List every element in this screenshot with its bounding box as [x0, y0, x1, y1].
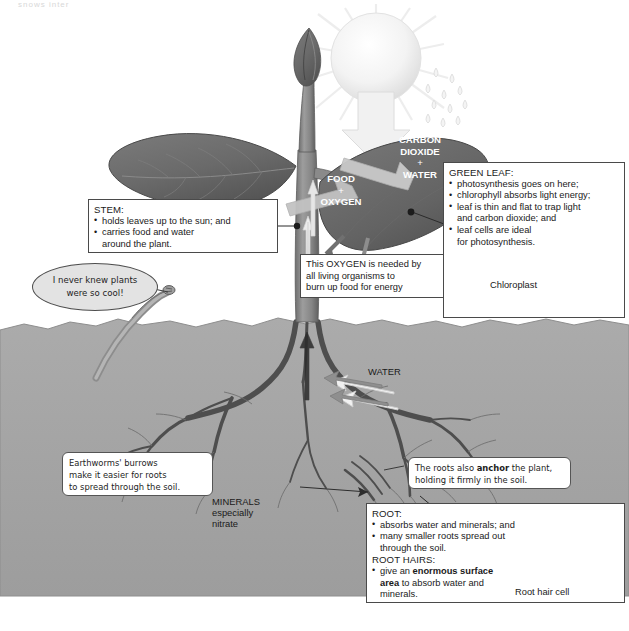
- root-hairs-pre: give an: [380, 566, 413, 576]
- earthworm-note-line-3: to spread through the soil.: [69, 481, 206, 493]
- oxygen-callout-box: This OXYGEN is needed by all living orga…: [300, 254, 452, 298]
- green-leaf-cont-4: for photosynthesis.: [449, 237, 619, 249]
- stem-shape-upper: [299, 80, 315, 152]
- stem-bullet-2: carries food and water: [94, 227, 272, 239]
- co2-line1: CARBON: [399, 134, 441, 145]
- food-plus: +: [338, 185, 344, 196]
- oxygen-line-2: all living organisms to: [306, 271, 446, 283]
- minerals-line1: MINERALS: [212, 496, 260, 507]
- sun-icon: [331, 13, 421, 103]
- oxygen-line-3: burn up food for energy: [306, 282, 446, 294]
- chloroplast-label: Chloroplast: [490, 280, 537, 292]
- anchor-bold: anchor: [477, 463, 509, 473]
- root-bullet-1: absorbs water and minerals; and: [372, 520, 619, 532]
- root-heading: ROOT:: [372, 508, 619, 520]
- anchor-pre: The roots also: [415, 463, 477, 473]
- green-leaf-bullet-2: chlorophyll absorbs light energy;: [449, 190, 619, 202]
- green-leaf-bullets: photosynthesis goes on here; chlorophyll…: [449, 179, 619, 214]
- anchor-post: the plant,: [509, 463, 552, 473]
- stem-leader-dot: [294, 223, 300, 229]
- root-hairs-line2: area to absorb water and: [372, 578, 619, 590]
- green-leaf-callout-box: GREEN LEAF: photosynthesis goes on here;…: [443, 162, 625, 318]
- root-bullets: absorbs water and minerals; and many sma…: [372, 520, 619, 543]
- co2-line2: DIOXIDE: [400, 146, 439, 157]
- green-leaf-heading: GREEN LEAF:: [449, 167, 619, 179]
- root-hairs-bullet-1: give an enormous surface: [372, 566, 619, 578]
- co2-plus: +: [417, 157, 423, 168]
- anchor-line-1: The roots also anchor the plant,: [415, 462, 564, 474]
- worm-bubble-line-1: I never knew plants: [53, 274, 138, 287]
- root-callout-box: ROOT: absorbs water and minerals; and ma…: [366, 503, 625, 603]
- leaf-top-shape: [109, 134, 296, 209]
- oxygen-line-1: This OXYGEN is needed by: [306, 259, 446, 271]
- minerals-label: MINERALS especially nitrate: [212, 496, 260, 529]
- anchor-line-2: holding it firmly in the soil.: [415, 474, 564, 486]
- earthworm-note-line-1: Earthworms' burrows: [69, 457, 206, 469]
- root-hairs-bold2: area: [380, 578, 399, 588]
- root-hairs-bullets: give an enormous surface: [372, 566, 619, 578]
- root-hairs-rest: to absorb water and: [399, 578, 484, 588]
- green-leaf-bullet-4: leaf cells are ideal: [449, 225, 619, 237]
- food-oxygen-label: FOOD + OXYGEN: [302, 173, 380, 208]
- green-leaf-bullet-1: photosynthesis goes on here;: [449, 179, 619, 191]
- root-cont-2: through the soil.: [372, 543, 619, 555]
- stem-bullet-1: holds leaves up to the sun; and: [94, 216, 272, 228]
- greenleaf-leader-dot: [408, 209, 415, 216]
- root-hair-cell-label: Root hair cell: [515, 587, 569, 599]
- stem-callout-box: STEM: holds leaves up to the sun; and ca…: [88, 199, 278, 253]
- minerals-line3: nitrate: [212, 518, 238, 529]
- oxygen-label: OXYGEN: [320, 196, 361, 207]
- green-leaf-bullet-3: leaf is thin and flat to trap light: [449, 202, 619, 214]
- earthworm-note-box: Earthworms' burrows make it easier for r…: [62, 452, 213, 496]
- root-hairs-bold: enormous surface: [413, 566, 494, 576]
- flower-bud-shape: [294, 28, 321, 86]
- minerals-line2: especially: [212, 507, 253, 518]
- root-hairs-line3: minerals.: [372, 589, 619, 601]
- root-bullet-2: many smaller roots spread out: [372, 531, 619, 543]
- earthworm-speech-bubble: I never knew plants were so cool!: [32, 263, 158, 311]
- co2-line3: WATER: [403, 169, 437, 180]
- stem-continuation: around the plant.: [94, 239, 272, 251]
- diagram-canvas: snows inter: [0, 0, 629, 631]
- green-leaf-bullets-2: leaf cells are ideal: [449, 225, 619, 237]
- root-hairs-heading: ROOT HAIRS:: [372, 554, 619, 566]
- stem-bullets: holds leaves up to the sun; and carries …: [94, 216, 272, 239]
- earthworm-note-line-2: make it easier for roots: [69, 469, 206, 481]
- worm-bubble-line-2: were so cool!: [66, 287, 123, 300]
- water-label: WATER: [368, 366, 401, 377]
- anchor-note-box: The roots also anchor the plant, holding…: [408, 457, 571, 489]
- food-label: FOOD: [327, 173, 355, 184]
- green-leaf-cont-3: and carbon dioxide; and: [449, 213, 619, 225]
- stem-heading: STEM:: [94, 204, 272, 216]
